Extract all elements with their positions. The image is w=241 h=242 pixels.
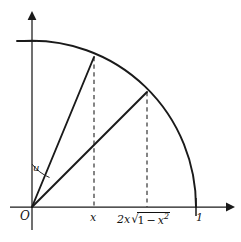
quarter-circle-arc [17, 41, 196, 207]
radicand-one: 1 [138, 214, 145, 227]
x-axis-arrow-icon [226, 203, 235, 212]
x-tick-label: x [90, 212, 96, 223]
origin-label: O [20, 210, 30, 222]
unit-tick-label: 1 [196, 212, 203, 223]
radicand-minus-sign: − [145, 214, 158, 227]
radical-group: √1−x2 [130, 211, 170, 225]
ray-to-point-a [32, 57, 94, 207]
radicand-exponent: 2 [164, 212, 169, 221]
expr-coefficient-term: 2x [117, 213, 130, 226]
geometry-figure: O x u 1 2x√1−x2 [0, 0, 241, 242]
expression-tick-label: 2x√1−x2 [117, 211, 170, 225]
radicand-group: 1−x2 [137, 212, 170, 226]
ray-to-point-b [32, 92, 147, 207]
y-axis-arrow-icon [28, 11, 37, 20]
angle-label-u: u [33, 163, 39, 173]
figure-canvas [0, 0, 241, 242]
